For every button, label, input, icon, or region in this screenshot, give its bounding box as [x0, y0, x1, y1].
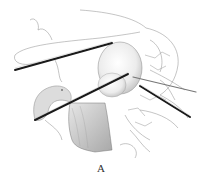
grasper-upper-left — [15, 43, 112, 70]
grasper-right-upper — [133, 77, 196, 92]
figure-caption: A — [0, 162, 202, 174]
tissue-flap — [69, 103, 112, 152]
grasper-right-lower — [140, 86, 190, 117]
surgical-illustration — [0, 0, 202, 160]
